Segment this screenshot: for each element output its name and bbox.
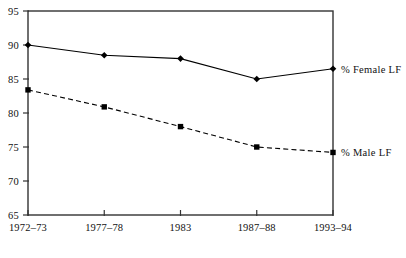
x-axis-tick-label: 1983 — [170, 222, 192, 233]
series-line-1 — [28, 45, 333, 79]
y-axis-tick-label: 70 — [0, 176, 19, 187]
data-point-marker — [178, 124, 183, 129]
data-point-marker — [102, 104, 107, 109]
x-axis-tick-label: 1993–94 — [314, 222, 352, 233]
data-point-marker — [101, 52, 108, 59]
data-point-marker — [254, 144, 259, 149]
x-axis-tick-label: 1987–88 — [238, 222, 276, 233]
y-axis-tick-label: 95 — [0, 6, 19, 17]
data-point-marker — [25, 42, 32, 49]
data-point-marker — [330, 66, 337, 73]
x-axis-tick-label: 1977–78 — [85, 222, 123, 233]
series-markers-group — [25, 42, 337, 155]
series-label-1: % Female LF — [341, 63, 401, 74]
line-chart: 65707580859095 1972–731977–7819831987–88… — [0, 0, 406, 258]
series-label-2: % Male LF — [341, 147, 392, 158]
data-point-marker — [25, 87, 30, 92]
y-axis-tick-label: 80 — [0, 108, 19, 119]
y-axis-tick-label: 85 — [0, 74, 19, 85]
data-point-marker — [177, 55, 184, 62]
data-point-marker — [253, 76, 260, 83]
series-line-2 — [28, 90, 333, 153]
data-point-marker — [330, 150, 335, 155]
plot-frame-border — [28, 11, 333, 215]
x-axis-tick-label: 1972–73 — [9, 222, 47, 233]
y-axis-tick-label: 65 — [0, 210, 19, 221]
chart-plot-area — [0, 0, 406, 258]
y-axis-tick-label: 75 — [0, 142, 19, 153]
y-axis-tick-label: 90 — [0, 40, 19, 51]
